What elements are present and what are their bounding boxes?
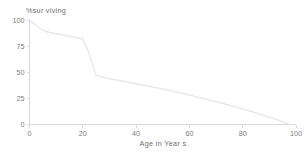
x-tick-label: 60 <box>185 129 193 138</box>
y-tick-label: 25 <box>17 94 25 103</box>
y-axis-ticks: 0255075100 <box>13 16 30 130</box>
x-tick-label: 20 <box>79 129 87 138</box>
x-tick-label: 0 <box>28 129 32 138</box>
y-tick-label: 50 <box>17 68 25 77</box>
x-tick-label: 100 <box>290 129 302 138</box>
x-axis-ticks: 020406080100 <box>28 125 303 138</box>
survival-chart: %sur viving 0255075100 020406080100 Age … <box>0 0 304 153</box>
x-tick-label: 80 <box>239 129 247 138</box>
chart-title: %sur viving <box>26 6 66 15</box>
chart-canvas: %sur viving 0255075100 020406080100 Age … <box>0 0 304 153</box>
survival-curve <box>30 20 291 125</box>
x-axis-label: Age in Year s <box>140 139 187 148</box>
y-tick-label: 75 <box>17 42 25 51</box>
y-tick-label: 0 <box>21 120 25 129</box>
x-tick-label: 40 <box>132 129 140 138</box>
y-tick-label: 100 <box>13 16 25 25</box>
